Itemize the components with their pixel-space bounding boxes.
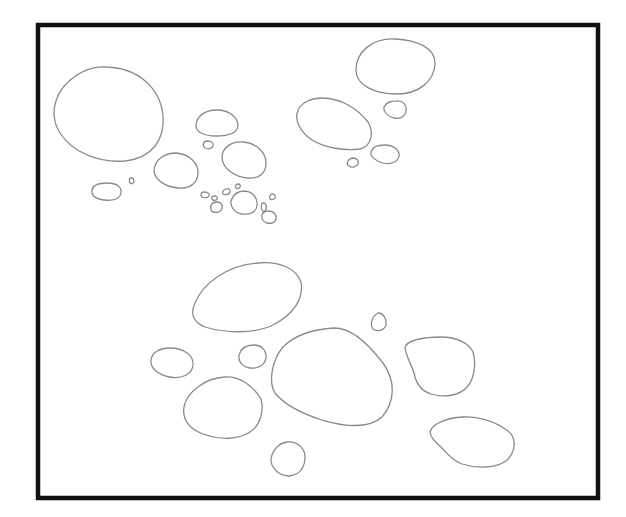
diagram-canvas: [0, 0, 626, 517]
blob: [430, 417, 514, 467]
blob: [347, 158, 358, 167]
blob: [356, 39, 435, 94]
blob-tiny: [270, 194, 276, 200]
blob: [384, 101, 406, 118]
upper-left-cluster: [54, 67, 276, 223]
blob-tiny: [201, 192, 209, 198]
blob: [193, 263, 302, 332]
blob: [297, 98, 372, 150]
blob: [271, 442, 305, 476]
upper-right-cluster: [297, 39, 435, 167]
blob: [222, 142, 266, 178]
lower-cluster: [151, 263, 514, 476]
blob-tiny: [223, 189, 231, 195]
frame-border: [38, 25, 598, 498]
blob-tiny: [261, 203, 266, 211]
blob: [262, 211, 276, 223]
blob: [371, 145, 399, 164]
blob: [151, 348, 193, 378]
blob-tiny: [212, 196, 218, 201]
blob: [184, 377, 262, 438]
blob: [239, 345, 266, 368]
blob: [272, 328, 393, 426]
blob: [405, 337, 475, 396]
blob: [231, 191, 257, 214]
blob: [154, 153, 198, 188]
blob: [203, 141, 213, 149]
blob: [211, 202, 223, 212]
blob: [196, 110, 238, 136]
blob: [92, 183, 121, 200]
blob-large: [54, 67, 163, 161]
blob-tiny: [236, 184, 241, 189]
blob-tiny: [129, 178, 134, 184]
blob: [371, 313, 386, 331]
